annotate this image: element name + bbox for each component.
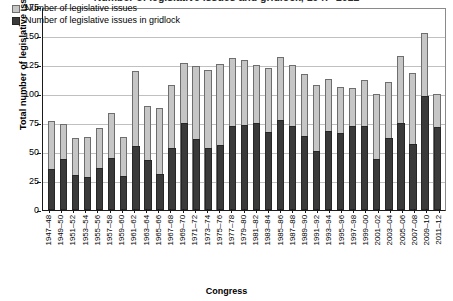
bar-total-issues bbox=[409, 73, 416, 210]
bar-total-issues bbox=[433, 94, 440, 210]
bar-total-issues bbox=[156, 108, 163, 210]
x-axis-tick-cell: 1991–92 bbox=[311, 213, 323, 285]
bar-gridlock-issues bbox=[193, 139, 200, 210]
x-axis-tick-cell: 2005–06 bbox=[396, 213, 408, 285]
bar-total-issues bbox=[180, 63, 187, 210]
x-axis-tick-mark bbox=[49, 209, 50, 213]
legend-label: Number of legislative issues bbox=[25, 4, 137, 13]
bar-series-container bbox=[44, 9, 444, 210]
x-axis-tick-label: 1999–00 bbox=[362, 215, 370, 245]
bar-gridlock-issues bbox=[421, 96, 428, 210]
x-axis-tick-cell: 1947–48 bbox=[43, 213, 55, 285]
bar-total-issues bbox=[84, 137, 91, 210]
bar-group bbox=[359, 9, 371, 210]
y-axis-tick-label: 50 bbox=[5, 148, 39, 157]
x-axis-tick-mark bbox=[329, 209, 330, 213]
x-axis-tick-label: 1967–68 bbox=[167, 215, 175, 245]
bar-gridlock-issues bbox=[144, 160, 151, 210]
x-axis-tick-cell: 1967–68 bbox=[165, 213, 177, 285]
x-axis-tick-cell: 2011–12 bbox=[433, 213, 445, 285]
x-axis-tick-mark bbox=[219, 209, 220, 213]
x-axis-tick-cell: 1973–74 bbox=[201, 213, 213, 285]
x-axis-tick-cell: 1949–50 bbox=[55, 213, 67, 285]
x-axis-tick-mark bbox=[85, 209, 86, 213]
x-axis-tick-mark bbox=[134, 209, 135, 213]
x-axis-tick-label: 2009–10 bbox=[423, 215, 431, 245]
bar-total-issues bbox=[132, 71, 139, 210]
x-axis-tick-label: 1981–82 bbox=[252, 215, 260, 245]
bar-group bbox=[383, 9, 395, 210]
legend-label: Number of legislative issues in gridlock bbox=[25, 16, 180, 25]
x-axis-tick-mark bbox=[317, 209, 318, 213]
x-axis-tick-cell: 1959–60 bbox=[116, 213, 128, 285]
x-axis-tick-cell: 1963–64 bbox=[141, 213, 153, 285]
y-axis-tick-label: 25 bbox=[5, 177, 39, 186]
x-axis-tick-cell: 1981–82 bbox=[250, 213, 262, 285]
x-axis-tick-label: 1975–76 bbox=[216, 215, 224, 245]
bar-total-issues bbox=[229, 58, 236, 210]
bar-total-issues bbox=[421, 33, 428, 210]
x-axis-tick-label: 2007–08 bbox=[411, 215, 419, 245]
bar-group bbox=[57, 9, 69, 210]
bar-total-issues bbox=[108, 113, 115, 210]
x-axis-tick-label: 1973–74 bbox=[204, 215, 212, 245]
x-axis-tick-cell: 1989–90 bbox=[299, 213, 311, 285]
x-axis-tick-label: 1977–78 bbox=[228, 215, 236, 245]
bar-gridlock-issues bbox=[434, 127, 441, 209]
x-axis-tick-label: 1979–80 bbox=[240, 215, 248, 245]
bar-total-issues bbox=[265, 68, 272, 210]
x-axis-tick-mark bbox=[378, 209, 379, 213]
bar-total-issues bbox=[325, 79, 332, 210]
bar-total-issues bbox=[72, 138, 79, 210]
bar-gridlock-issues bbox=[373, 159, 380, 210]
x-axis-tick-label: 1957–58 bbox=[106, 215, 114, 245]
bar-gridlock-issues bbox=[120, 176, 127, 210]
bar-group bbox=[226, 9, 238, 210]
bar-gridlock-issues bbox=[156, 174, 163, 210]
x-axis-tick-cell: 2003–04 bbox=[384, 213, 396, 285]
x-axis-tick-mark bbox=[61, 209, 62, 213]
chart-figure: Number of legislative issues and gridloc… bbox=[0, 0, 453, 301]
y-axis-tick-mark bbox=[37, 182, 41, 183]
bar-gridlock-issues bbox=[265, 132, 272, 210]
x-axis-tick-label: 1989–90 bbox=[301, 215, 309, 245]
bar-group bbox=[202, 9, 214, 210]
x-axis-tick-label: 1959–60 bbox=[118, 215, 126, 245]
x-axis-tick-label: 2003–04 bbox=[386, 215, 394, 245]
bar-gridlock-issues bbox=[60, 159, 67, 210]
bar-gridlock-issues bbox=[241, 125, 248, 210]
x-axis-tick-cell: 1955–56 bbox=[92, 213, 104, 285]
bar-gridlock-issues bbox=[132, 146, 139, 210]
x-axis-tick-mark bbox=[207, 209, 208, 213]
bar-group bbox=[335, 9, 347, 210]
x-axis-tick-mark bbox=[426, 209, 427, 213]
y-axis-tick-label: 75 bbox=[5, 119, 39, 128]
y-axis-tick-mark bbox=[37, 95, 41, 96]
bar-total-issues bbox=[289, 65, 296, 210]
bar-gridlock-issues bbox=[181, 123, 188, 210]
x-axis-tick-label: 2001–02 bbox=[374, 215, 382, 245]
bar-gridlock-issues bbox=[361, 126, 368, 210]
x-axis-tick-mark bbox=[122, 209, 123, 213]
bar-total-issues bbox=[192, 66, 199, 210]
x-axis-tick-cell: 2001–02 bbox=[372, 213, 384, 285]
x-axis-tick-cell: 1993–94 bbox=[323, 213, 335, 285]
y-axis-tick-label: 175 bbox=[5, 3, 39, 12]
bar-group bbox=[322, 9, 334, 210]
bar-gridlock-issues bbox=[108, 158, 115, 210]
x-axis-tick-cell: 1969–70 bbox=[177, 213, 189, 285]
bar-total-issues bbox=[385, 82, 392, 210]
bar-total-issues bbox=[168, 85, 175, 210]
x-axis-tick-mark bbox=[158, 209, 159, 213]
bar-gridlock-issues bbox=[84, 177, 91, 209]
bar-total-issues bbox=[60, 124, 67, 210]
x-axis-tick-label: 1969–70 bbox=[179, 215, 187, 245]
bar-group bbox=[310, 9, 322, 210]
x-axis-tick-mark bbox=[402, 209, 403, 213]
bar-group bbox=[407, 9, 419, 210]
bar-group bbox=[262, 9, 274, 210]
x-axis-tick-mark bbox=[280, 209, 281, 213]
bar-gridlock-issues bbox=[397, 123, 404, 210]
x-axis-tick-label: 1949–50 bbox=[57, 215, 65, 245]
x-axis-tick-mark bbox=[231, 209, 232, 213]
